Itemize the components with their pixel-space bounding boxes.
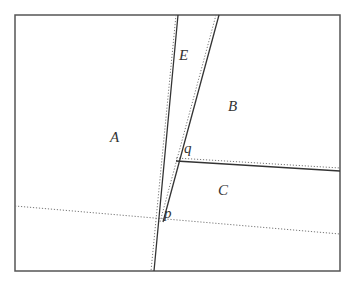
left-steep-line — [154, 15, 178, 271]
p-dotted — [15, 206, 340, 234]
region-a-label: A — [109, 129, 120, 145]
region-e-label: E — [178, 47, 188, 63]
point-p-label: p — [163, 205, 172, 221]
diagram-frame — [15, 15, 340, 271]
point-q-label: q — [184, 140, 192, 156]
region-b-label: B — [228, 98, 237, 114]
left-steep-dotted — [151, 15, 176, 271]
right-slanted-line — [163, 15, 219, 222]
region-c-label: C — [218, 182, 229, 198]
dotted-lines — [15, 15, 340, 271]
partition-diagram: AEBqCp — [0, 0, 353, 283]
